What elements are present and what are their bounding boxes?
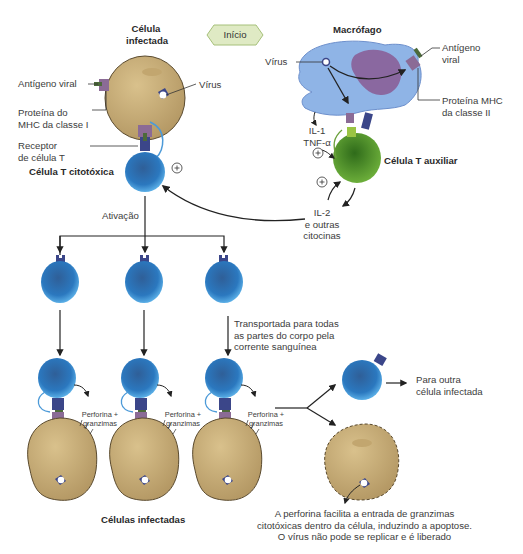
apoptosis-note-line2: citotóxicas dentro da célula, induzindo … <box>247 520 482 532</box>
infected-cell-top <box>94 56 185 158</box>
tcr-label: Receptor de célula T <box>18 140 65 163</box>
cytokines-line2: e outras <box>300 219 344 231</box>
tcr-label-line1: Receptor <box>18 140 65 152</box>
transport-label: Transportada para todas as partes do cor… <box>234 318 339 353</box>
released-t-cell <box>342 360 382 400</box>
mhc1-label-line2: MHC da classe I <box>18 119 88 131</box>
perforin-1-line2: granzimas <box>78 419 122 428</box>
next-cell-line1: Para outra <box>416 374 483 386</box>
cytokines-label: IL-2 e outras citocinas <box>300 207 344 242</box>
tnf-alpha-label: TNF-α <box>302 137 332 149</box>
perforin-2-line2: granzimas <box>161 419 205 428</box>
apoptosis-note-line1: A perforina facilita a entrada de granzi… <box>247 508 482 520</box>
macrophage-title: Macrófago <box>333 24 382 36</box>
mhc1-label-line1: Proteína do <box>18 107 88 119</box>
macrophage-antigen-line2: viral <box>442 54 480 66</box>
t-cell-row-middle <box>41 255 243 303</box>
cytokines-line3: citocinas <box>300 230 344 242</box>
mhc2-label: Proteína MHC da classe II <box>442 95 503 118</box>
diagram-canvas: Início Célula infectada Antígeno viral V… <box>0 0 523 554</box>
macrophage-antigen-label: Antígeno viral <box>442 42 480 65</box>
transport-line1: Transportada para todas <box>234 318 339 330</box>
perforin-2-line1: Perforina + <box>161 410 205 419</box>
virus-label: Vírus <box>199 79 221 91</box>
next-cell-label: Para outra célula infectada <box>416 374 483 397</box>
mhc1-label: Proteína do MHC da classe I <box>18 107 88 130</box>
diagram-graphics <box>0 0 523 554</box>
cytotoxic-t-cell-label: Célula T citotóxica <box>29 166 114 178</box>
next-cell-line2: célula infectada <box>416 386 483 398</box>
infected-cell-title: Célula infectada <box>126 23 166 46</box>
infected-cell-title-line1: Célula <box>126 23 166 35</box>
perforin-3-line1: Perforina + <box>244 410 288 419</box>
infected-cell-title-line2: infectada <box>126 35 166 47</box>
perforin-1-line1: Perforina + <box>78 410 122 419</box>
perforin-3-line2: granzimas <box>244 419 288 428</box>
cytokines-line1: IL-2 <box>300 207 344 219</box>
infected-cells-label: Células infectadas <box>101 514 185 526</box>
start-badge-label: Início <box>207 25 263 45</box>
transport-line2: as partes do corpo pela <box>234 330 339 342</box>
macrophage-virus-label: Vírus <box>265 56 287 68</box>
transport-line3: corrente sanguínea <box>234 341 339 353</box>
killing-row <box>28 358 262 500</box>
helper-t-cell-shape <box>333 133 381 183</box>
apoptosis-note: A perforina facilita a entrada de granzi… <box>247 508 482 543</box>
activation-label: Ativação <box>102 210 139 222</box>
macrophage-antigen-line1: Antígeno <box>442 42 480 54</box>
macrophage-shape <box>299 41 423 130</box>
helper-t-cell-label: Célula T auxiliar <box>384 155 458 167</box>
apoptotic-cell <box>325 424 399 503</box>
il1-tnf-label: IL-1 TNF-α <box>302 125 332 148</box>
mhc2-label-line1: Proteína MHC <box>442 95 503 107</box>
perforin-label-2: Perforina + granzimas <box>161 410 205 428</box>
il1-label: IL-1 <box>302 125 332 137</box>
tcr-label-line2: de célula T <box>18 152 65 164</box>
perforin-label-3: Perforina + granzimas <box>244 410 288 428</box>
perforin-label-1: Perforina + granzimas <box>78 410 122 428</box>
apoptosis-note-line3: O vírus não pode se replicar e é liberad… <box>247 531 482 543</box>
cytotoxic-t-cell-top <box>125 152 165 192</box>
viral-antigen-label: Antígeno viral <box>18 78 77 90</box>
start-badge: Início <box>207 25 263 45</box>
mhc2-label-line2: da classe II <box>442 107 503 119</box>
